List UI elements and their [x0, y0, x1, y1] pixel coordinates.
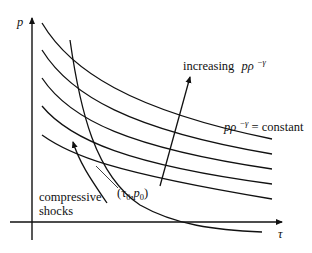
compressive-label: compressive: [39, 190, 102, 204]
increasing-label: increasing pρ −γ: [183, 57, 267, 73]
p-tau-diagram: p τ increasing pρ −γ pρ −γ = constant (τ…: [0, 0, 312, 253]
initial-point-label: (τ0,p0): [117, 186, 148, 202]
isentrope-curve-4: [42, 106, 272, 184]
p-axis-label: p: [16, 15, 23, 29]
shocks-label: shocks: [39, 204, 73, 218]
isentrope-curve-2: [42, 50, 272, 154]
isentrope-constant-label: pρ −γ = constant: [223, 115, 304, 134]
tau-axis-label: τ: [278, 227, 283, 241]
